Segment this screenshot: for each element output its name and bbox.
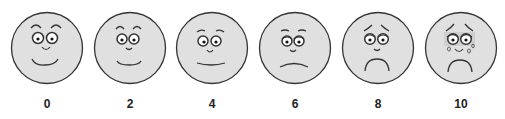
sad-face-icon — [341, 11, 415, 85]
label-8: 8 — [358, 97, 398, 111]
face-0-very-happy — [10, 11, 84, 85]
crying-face-icon — [424, 11, 498, 85]
face-6-neutral-frown — [258, 11, 332, 85]
happy-face-icon — [93, 11, 167, 85]
label-6: 6 — [275, 97, 315, 111]
very-happy-face-icon — [10, 11, 84, 85]
label-10: 10 — [441, 97, 481, 111]
neutral-frown-face-icon — [258, 11, 332, 85]
label-2: 2 — [110, 97, 150, 111]
face-4-slight-smile — [175, 11, 249, 85]
label-4: 4 — [192, 97, 232, 111]
pain-rating-scale: 0 2 4 — [0, 0, 505, 119]
face-10-crying — [424, 11, 498, 85]
face-8-sad — [341, 11, 415, 85]
face-2-happy — [93, 11, 167, 85]
slight-smile-face-icon — [175, 11, 249, 85]
label-0: 0 — [27, 97, 67, 111]
